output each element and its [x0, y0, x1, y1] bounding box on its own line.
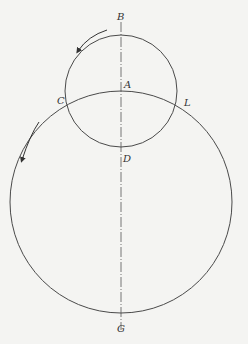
label-G: G — [117, 323, 125, 334]
small-circle-rotation-arrow — [78, 30, 107, 51]
label-B: B — [116, 11, 124, 22]
two-circle-diagram: B A C L D G — [0, 0, 248, 344]
label-C: C — [57, 95, 65, 106]
label-D: D — [122, 153, 131, 164]
label-A: A — [123, 79, 131, 90]
label-L: L — [183, 97, 191, 108]
large-circle-rotation-arrow — [22, 122, 39, 160]
